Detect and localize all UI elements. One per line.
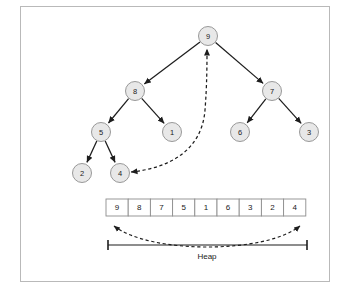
tree-edge-7-3	[279, 98, 301, 123]
array-cell-value-2: 7	[159, 203, 164, 212]
array-cell-value-8: 4	[292, 203, 297, 212]
swap-arrow	[131, 49, 207, 172]
node-label-5: 5	[99, 128, 103, 137]
node-label-1: 1	[170, 128, 174, 137]
tree-edges	[87, 42, 301, 162]
tree-edge-5-4	[105, 141, 115, 162]
tree-edge-8-1	[142, 98, 164, 123]
heap-diagram-canvas: 987516324 987516324 Heap	[0, 0, 351, 288]
tree-edge-9-8	[144, 42, 200, 84]
swap-dashed-arrow	[131, 49, 207, 172]
tree-edge-8-5	[108, 99, 128, 123]
array-cell[interactable]: 3	[239, 199, 261, 216]
array-cell[interactable]: 5	[173, 199, 195, 216]
array-cell-value-0: 9	[115, 203, 120, 212]
tree-node-6[interactable]: 6	[231, 123, 250, 142]
node-label-8: 8	[133, 87, 137, 96]
array-cell-value-1: 8	[137, 203, 142, 212]
array-cell[interactable]: 7	[150, 199, 172, 216]
array-cell-value-6: 3	[248, 203, 253, 212]
tree-node-4[interactable]: 4	[111, 164, 130, 183]
node-label-4: 4	[118, 169, 122, 178]
array-cell[interactable]: 8	[128, 199, 150, 216]
heap-range-label: Heap	[197, 252, 217, 261]
tree-nodes: 987516324	[73, 27, 319, 183]
node-label-9: 9	[206, 32, 210, 41]
node-label-7: 7	[270, 87, 274, 96]
tree-node-7[interactable]: 7	[263, 82, 282, 101]
array-cell-value-4: 1	[204, 203, 209, 212]
array-cell[interactable]: 2	[261, 199, 283, 216]
array-cell[interactable]: 9	[106, 199, 128, 216]
tree-node-1[interactable]: 1	[163, 123, 182, 142]
tree-edge-9-7	[216, 43, 264, 84]
array-cell[interactable]: 4	[284, 199, 306, 216]
tree-edge-7-6	[247, 99, 266, 123]
tree-node-3[interactable]: 3	[300, 123, 319, 142]
array-cell[interactable]: 6	[217, 199, 239, 216]
tree-node-2[interactable]: 2	[73, 164, 92, 183]
node-label-3: 3	[307, 128, 311, 137]
tree-node-9[interactable]: 9	[199, 27, 218, 46]
heap-range-marker: Heap	[108, 226, 307, 261]
tree-node-5[interactable]: 5	[92, 123, 111, 142]
heap-span-dashed-curve	[114, 226, 300, 247]
array-cell[interactable]: 1	[195, 199, 217, 216]
array-representation: 987516324	[106, 199, 306, 216]
tree-edge-5-2	[87, 141, 97, 162]
array-cell-value-7: 2	[270, 203, 275, 212]
array-cell-value-3: 5	[181, 203, 186, 212]
node-label-6: 6	[238, 128, 242, 137]
node-label-2: 2	[80, 169, 84, 178]
heap-figure: 987516324 987516324 Heap	[0, 0, 351, 288]
array-cell-value-5: 6	[226, 203, 231, 212]
tree-node-8[interactable]: 8	[126, 82, 145, 101]
